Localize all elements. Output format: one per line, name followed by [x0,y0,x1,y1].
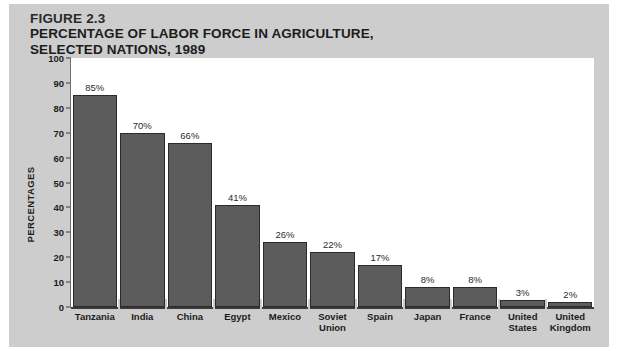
x-axis-category-label: UnitedKingdom [546,311,594,333]
bar-value-label: 41% [215,192,260,203]
bar[interactable] [120,133,165,307]
y-axis-tick-100: 100 [48,53,64,64]
x-axis-separator [545,299,547,309]
bar-value-label: 66% [168,130,213,141]
bar-group[interactable]: 41% [215,58,260,307]
x-axis-category-label: UnitedStates [499,311,547,333]
x-axis-category-line: Egypt [214,311,262,322]
x-axis-separator [355,299,357,309]
x-axis-category-label: SovietUnion [309,311,357,333]
x-axis-category-label: Mexico [261,311,309,322]
figure-panel: FIGURE 2.3 PERCENTAGE OF LABOR FORCE IN … [9,4,609,347]
bar[interactable] [310,252,355,307]
y-axis-tick-20: 20 [53,252,64,263]
x-axis-category-line: China [166,311,214,322]
plot-area: 85%70%66%41%26%22%17%8%8%3%2% [71,58,594,307]
x-axis-separator [308,299,310,309]
x-axis-category-line: Japan [404,311,452,322]
bar-group[interactable]: 26% [263,58,308,307]
bar-value-label: 85% [73,82,118,93]
y-axis-title-label: PERCENTAGES [25,166,36,242]
x-axis-category-label: Spain [356,311,404,322]
bar-value-label: 17% [358,252,403,263]
x-axis-category-line: States [499,322,547,333]
bar-group[interactable]: 8% [453,58,498,307]
x-axis-category-label: Egypt [214,311,262,322]
x-axis-category-line: United [546,311,594,322]
x-axis-separator [165,299,167,309]
bar-group[interactable]: 2% [548,58,593,307]
bar-value-label: 22% [310,239,355,250]
bar[interactable] [358,265,403,307]
bar-value-label: 26% [263,229,308,240]
y-axis-title: PERCENTAGES [20,144,40,264]
x-axis-category-line: Soviet [309,311,357,322]
x-axis-category-line: India [119,311,167,322]
bar[interactable] [215,205,260,307]
x-axis-category-label: Tanzania [71,311,119,322]
figure-title-line-2: SELECTED NATIONS, 1989 [30,42,580,58]
y-axis-tick-0: 0 [59,302,64,313]
x-axis-category-line: United [499,311,547,322]
bar-group[interactable]: 70% [120,58,165,307]
bar-group[interactable]: 3% [500,58,545,307]
bar[interactable] [73,95,118,307]
bar-value-label: 8% [405,274,450,285]
bar[interactable] [500,300,545,307]
x-axis-category-line: Mexico [261,311,309,322]
x-axis-separator [118,299,120,309]
x-axis-category-band: TanzaniaIndiaChinaEgyptMexicoSovietUnion… [71,309,594,343]
y-axis-tick-30: 30 [53,227,64,238]
y-axis-tick-60: 60 [53,152,64,163]
x-axis-category-line: Spain [356,311,404,322]
x-axis-category-line: Union [309,322,357,333]
y-axis-tick-70: 70 [53,127,64,138]
x-axis-separator [498,299,500,309]
y-axis-tick-80: 80 [53,102,64,113]
x-axis-category-line: France [451,311,499,322]
bar-group[interactable]: 17% [358,58,403,307]
bar-group[interactable]: 8% [405,58,450,307]
bar-group[interactable]: 85% [73,58,118,307]
figure-title-block: FIGURE 2.3 PERCENTAGE OF LABOR FORCE IN … [30,11,580,57]
y-axis-tick-40: 40 [53,202,64,213]
x-axis-category-label: France [451,311,499,322]
bar[interactable] [405,287,450,307]
bar-group[interactable]: 22% [310,58,355,307]
bar-value-label: 3% [500,287,545,298]
x-axis-separator [213,299,215,309]
y-axis-tick-50: 50 [53,177,64,188]
x-axis-category-line: Tanzania [71,311,119,322]
bar-value-label: 8% [453,274,498,285]
y-axis-tick-10: 10 [53,277,64,288]
figure-title-line-1: PERCENTAGE OF LABOR FORCE IN AGRICULTURE… [30,26,580,42]
x-axis-category-label: Japan [404,311,452,322]
bar[interactable] [168,143,213,307]
bar-value-label: 2% [548,289,593,300]
bar[interactable] [453,287,498,307]
bar[interactable] [263,242,308,307]
bar-value-label: 70% [120,120,165,131]
y-axis-tick-labels: 1009080706050403020100 [39,58,71,307]
x-axis-category-label: China [166,311,214,322]
x-axis-category-label: India [119,311,167,322]
bar-group[interactable]: 66% [168,58,213,307]
y-axis-tick-90: 90 [53,77,64,88]
x-axis-category-line: Kingdom [546,322,594,333]
x-axis-separator [403,299,405,309]
x-axis-separator [260,299,262,309]
figure-number: FIGURE 2.3 [30,11,580,26]
x-axis-separator [450,299,452,309]
